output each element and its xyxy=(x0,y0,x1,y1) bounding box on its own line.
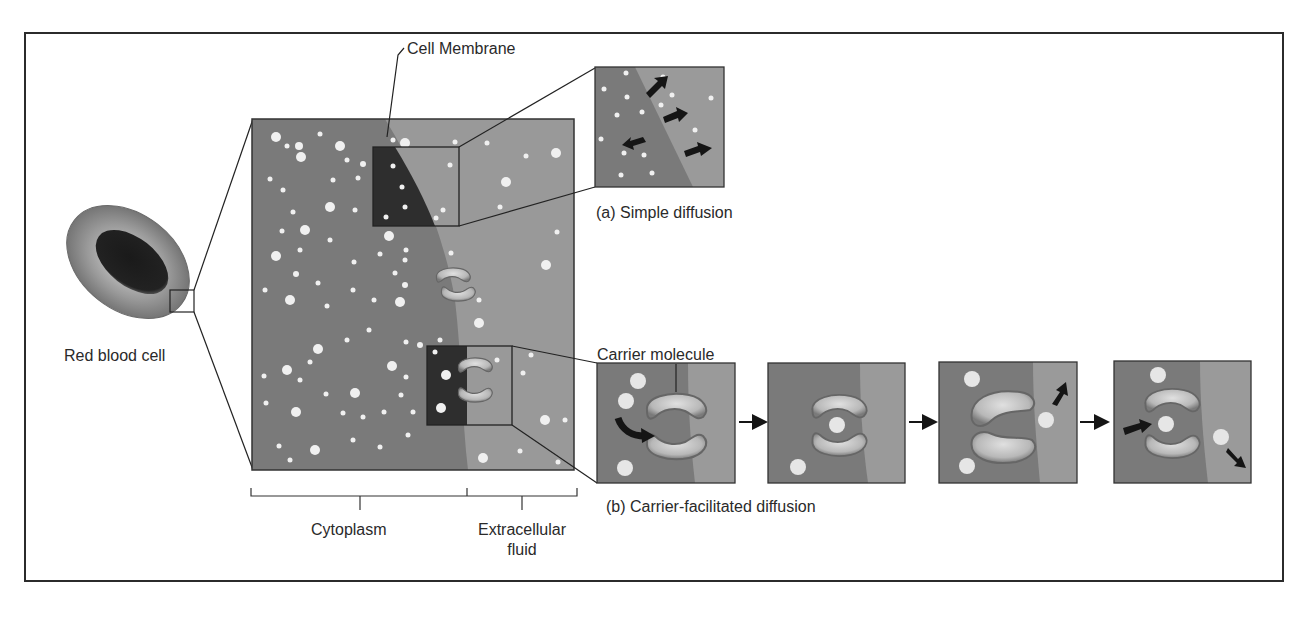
extracellular-label-line2: fluid xyxy=(464,541,580,559)
carrier-step-4-panel xyxy=(1114,361,1251,483)
red-blood-cell-label: Red blood cell xyxy=(64,347,165,365)
diffusion-diagram xyxy=(0,0,1310,630)
extracellular-label-line1: Extracellular xyxy=(464,521,580,539)
red-blood-cell xyxy=(45,182,211,341)
cytoplasm-label: Cytoplasm xyxy=(311,521,387,539)
carrier-facilitated-label: (b) Carrier-facilitated diffusion xyxy=(606,498,816,516)
carrier-diffusion-zoom-box xyxy=(427,346,512,425)
carrier-molecule-label: Carrier molecule xyxy=(597,346,714,364)
extracellular-fluid-label: Extracellular fluid xyxy=(464,521,580,559)
cell-membrane-label: Cell Membrane xyxy=(407,40,515,58)
carrier-step-2-panel xyxy=(768,363,905,483)
simple-diffusion-zoom-box xyxy=(373,147,459,226)
carrier-step-3-panel xyxy=(939,362,1077,483)
carrier-step-1-panel xyxy=(597,363,735,483)
simple-diffusion-label: (a) Simple diffusion xyxy=(596,204,733,222)
simple-diffusion-panel xyxy=(595,67,724,187)
main-membrane-panel xyxy=(252,119,574,470)
region-brackets xyxy=(251,488,577,510)
